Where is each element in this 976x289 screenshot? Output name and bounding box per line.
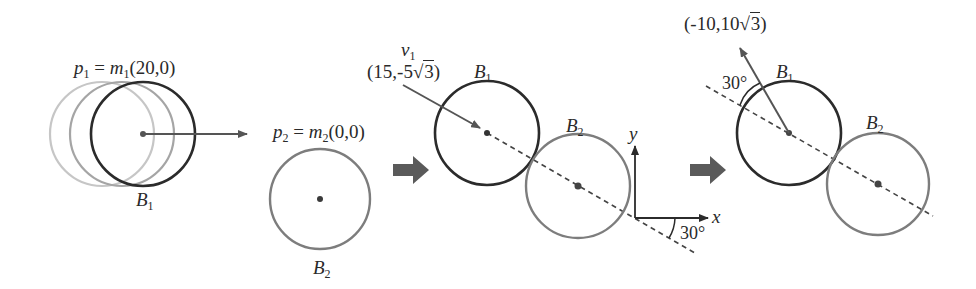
prefix: (15,-5 [367, 61, 413, 82]
vector: (20,0) [129, 57, 175, 78]
sub: 2 [878, 122, 884, 136]
suffix: ) [760, 13, 766, 34]
var: B [776, 61, 788, 82]
ball-label-b1: B1 [776, 62, 794, 84]
vector: (0,0) [328, 121, 364, 142]
sub: 2 [578, 125, 584, 139]
panel-2-stationary-ball [270, 149, 370, 249]
prefix: (-10,10 [684, 13, 739, 34]
angle-label: 30° [722, 74, 747, 92]
ball-b2-center [575, 183, 582, 190]
momentum-label-p1: p1 = m1(20,0) [74, 58, 175, 80]
ghost-ball-1 [50, 82, 154, 186]
panel-1-moving-ball [50, 82, 247, 186]
angle-arc [669, 218, 675, 238]
panel-3-collision [403, 81, 708, 253]
sqrt-icon: √ [413, 61, 423, 82]
mass: m [110, 57, 124, 78]
line-of-centers [487, 133, 695, 253]
var: B [474, 61, 486, 82]
sub: 1 [788, 71, 794, 85]
var: p [74, 57, 84, 78]
var: B [313, 257, 325, 278]
ball-b2-center [875, 181, 882, 188]
velocity-label-v1: v1 [401, 40, 415, 62]
velocity-arrow [403, 85, 480, 128]
sub: 2 [325, 267, 331, 281]
velocity-vector-label: (15,-5√3) [367, 62, 440, 81]
collision-diagram [0, 0, 976, 289]
eq: = [289, 121, 309, 142]
momentum-label-p2: p2 = m2(0,0) [273, 122, 365, 144]
mass: m [309, 121, 323, 142]
axis-y-label: y [629, 124, 637, 143]
angle-label: 30° [680, 224, 705, 242]
var: B [566, 115, 578, 136]
var: B [136, 189, 148, 210]
radicand: 3 [750, 12, 761, 34]
sqrt-icon: √ [739, 13, 749, 34]
sub: 1 [486, 71, 492, 85]
var: p [273, 121, 283, 142]
sub: 1 [148, 199, 154, 213]
eq: = [90, 57, 110, 78]
velocity-vector-label: (-10,10√3) [684, 14, 767, 33]
suffix: ) [434, 61, 440, 82]
axis-x-label: x [712, 207, 720, 226]
var: B [866, 112, 878, 133]
ball-label-b2: B2 [313, 258, 331, 280]
ball-b1-center [484, 130, 490, 136]
radicand: 3 [423, 60, 434, 82]
ball-label-b1: B1 [474, 62, 492, 84]
ball-label-b2: B2 [566, 116, 584, 138]
ball-b2-center [317, 196, 323, 202]
ball-label-b1: B1 [136, 190, 154, 212]
ball-label-b2: B2 [866, 113, 884, 135]
transition-arrow-icon [393, 156, 429, 184]
transition-arrow-icon [690, 156, 726, 184]
